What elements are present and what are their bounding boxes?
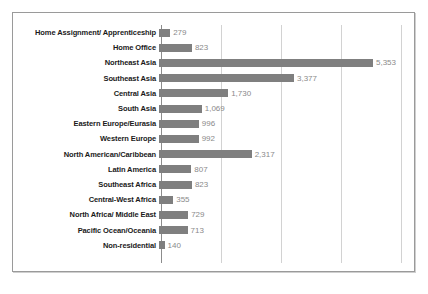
bar xyxy=(159,74,294,82)
bar-value-label: 2,317 xyxy=(252,150,275,159)
bar-row: Central Asia1,730 xyxy=(13,86,416,101)
bar-value-label: 996 xyxy=(199,119,215,128)
bar-track: 992 xyxy=(159,131,416,146)
bar-rows-group: Home Assignment/ Apprenticeship279Home O… xyxy=(13,13,416,273)
category-label: Home Office xyxy=(13,43,159,52)
bar-track: 729 xyxy=(159,207,416,222)
bar-track: 807 xyxy=(159,162,416,177)
category-label: Southeast Asia xyxy=(13,74,159,83)
bar xyxy=(159,29,170,37)
bar-track: 996 xyxy=(159,116,416,131)
bar xyxy=(159,150,252,158)
category-label: Central-West Africa xyxy=(13,195,159,204)
bar-row: Eastern Europe/Eurasia996 xyxy=(13,116,416,131)
category-label: North Africa/ Middle East xyxy=(13,210,159,219)
bar-value-label: 5,353 xyxy=(373,58,396,67)
category-label: North American/Caribbean xyxy=(13,150,159,159)
category-label: Western Europe xyxy=(13,134,159,143)
bar-value-label: 1,069 xyxy=(202,104,225,113)
bar xyxy=(159,44,192,52)
bar-value-label: 279 xyxy=(170,28,186,37)
bar xyxy=(159,120,199,128)
bar-value-label: 823 xyxy=(192,43,208,52)
category-label: Latin America xyxy=(13,165,159,174)
bar-row: Central-West Africa355 xyxy=(13,192,416,207)
bar-track: 140 xyxy=(159,238,416,253)
bar-row: North Africa/ Middle East729 xyxy=(13,207,416,222)
category-label: Home Assignment/ Apprenticeship xyxy=(13,28,159,37)
bar-row: South Asia1,069 xyxy=(13,101,416,116)
bar-track: 1,730 xyxy=(159,86,416,101)
bar-value-label: 3,377 xyxy=(294,74,317,83)
bar-track: 823 xyxy=(159,177,416,192)
category-label: Non-residential xyxy=(13,241,159,250)
bar-value-label: 823 xyxy=(192,180,208,189)
category-label: Southeast Africa xyxy=(13,180,159,189)
bar-track: 355 xyxy=(159,192,416,207)
bar-row: Non-residential140 xyxy=(13,238,416,253)
bar-chart-figure: Home Assignment/ Apprenticeship279Home O… xyxy=(0,0,428,294)
bar-row: Pacific Ocean/Oceania713 xyxy=(13,223,416,238)
bar-value-label: 713 xyxy=(188,226,204,235)
bar-row: Northeast Asia5,353 xyxy=(13,55,416,70)
bar-track: 823 xyxy=(159,40,416,55)
bar-row: North American/Caribbean2,317 xyxy=(13,147,416,162)
category-label: Eastern Europe/Eurasia xyxy=(13,119,159,128)
bar-row: Latin America807 xyxy=(13,162,416,177)
bar-row: Southeast Africa823 xyxy=(13,177,416,192)
bar-track: 1,069 xyxy=(159,101,416,116)
bar xyxy=(159,59,373,67)
bar-value-label: 1,730 xyxy=(228,89,251,98)
bar-track: 5,353 xyxy=(159,55,416,70)
bar xyxy=(159,211,188,219)
bar xyxy=(159,226,188,234)
bar-value-label: 807 xyxy=(191,165,207,174)
chart-frame: Home Assignment/ Apprenticeship279Home O… xyxy=(12,12,415,272)
bar-value-label: 140 xyxy=(165,241,181,250)
bar xyxy=(159,165,191,173)
category-label: South Asia xyxy=(13,104,159,113)
bar-value-label: 992 xyxy=(199,134,215,143)
bar-value-label: 729 xyxy=(188,210,204,219)
bar-row: Southeast Asia3,377 xyxy=(13,71,416,86)
bar-track: 713 xyxy=(159,223,416,238)
category-label: Pacific Ocean/Oceania xyxy=(13,226,159,235)
bar xyxy=(159,135,199,143)
bar xyxy=(159,196,173,204)
bar xyxy=(159,89,228,97)
bar-track: 279 xyxy=(159,25,416,40)
bar xyxy=(159,105,202,113)
bar-track: 3,377 xyxy=(159,71,416,86)
bar xyxy=(159,181,192,189)
category-label: Central Asia xyxy=(13,89,159,98)
bar-row: Home Office823 xyxy=(13,40,416,55)
bar-row: Home Assignment/ Apprenticeship279 xyxy=(13,25,416,40)
bar-row: Western Europe992 xyxy=(13,131,416,146)
bar-track: 2,317 xyxy=(159,147,416,162)
bar-value-label: 355 xyxy=(173,195,189,204)
category-label: Northeast Asia xyxy=(13,58,159,67)
